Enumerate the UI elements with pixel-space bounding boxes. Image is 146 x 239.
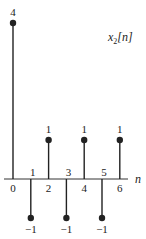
value-label: 1 (81, 123, 87, 135)
stem-marker (99, 215, 105, 221)
stem-marker (117, 137, 123, 143)
value-label: −1 (25, 223, 37, 235)
stem-marker (45, 137, 51, 143)
chart-title: x2[n] (107, 30, 133, 46)
stem-marker (81, 137, 87, 143)
stem-plot: n x2[n] 40−1112−1314−1516 (0, 0, 146, 239)
value-label: 1 (46, 123, 52, 135)
value-label: −1 (96, 223, 108, 235)
value-label: 4 (10, 6, 16, 18)
value-label: 1 (117, 123, 123, 135)
stem-marker (10, 20, 16, 26)
tick-label: 6 (117, 182, 123, 194)
stem-series: 40−1112−1314−1516 (10, 6, 123, 235)
tick-label: 2 (46, 182, 52, 194)
value-label: −1 (61, 223, 73, 235)
stem-marker (63, 215, 69, 221)
tick-label: 4 (81, 182, 87, 194)
stem-marker (28, 215, 34, 221)
tick-label: 3 (66, 166, 72, 178)
x-axis-label: n (135, 172, 141, 186)
tick-label: 0 (10, 182, 16, 194)
tick-label: 5 (101, 166, 107, 178)
tick-label: 1 (30, 166, 36, 178)
